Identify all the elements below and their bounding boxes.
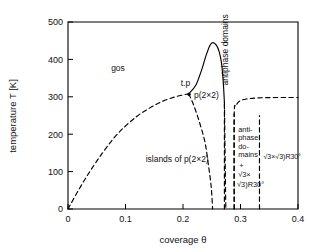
annotation-label: gos [111,63,125,73]
x-tick-label: 0.4 [292,214,305,224]
annotation-label: antiphase domains [220,14,230,85]
y-tick-label: 200 [48,130,63,140]
x-tick-label: 0.1 [119,214,132,224]
x-axis-title: coverage θ [159,234,206,245]
annotation-label: islands of p(2×2) [146,154,209,164]
phase-diagram-svg: 0100200300400500 00.10.20.30.4 gost.pp(2… [0,0,314,252]
annotation-label: √3×√3)R30° [264,153,302,161]
x-tick-label: 0 [65,214,70,224]
annotation-label: √3)R30° [237,180,264,189]
annotation-label: mains [238,150,258,159]
y-tick-label: 0 [58,204,63,214]
y-axis-title: temperature T [K] [7,79,18,153]
chart-figure: 0100200300400500 00.10.20.30.4 gost.pp(2… [0,0,314,252]
y-tick-label: 500 [48,17,63,27]
annotation-label: √3× [238,170,250,179]
annotation-label: phase [238,133,258,142]
y-tick-label: 400 [48,55,63,65]
annotation-label: p(2×2) [194,90,219,100]
triple-point-marker [187,92,190,95]
annotation-label: t.p [181,78,191,88]
annotation-label: + [239,161,243,170]
y-tick-label: 100 [48,167,63,177]
chart-background [0,0,314,252]
x-tick-label: 0.2 [177,214,190,224]
x-tick-label: 0.3 [234,214,247,224]
y-tick-label: 300 [48,92,63,102]
